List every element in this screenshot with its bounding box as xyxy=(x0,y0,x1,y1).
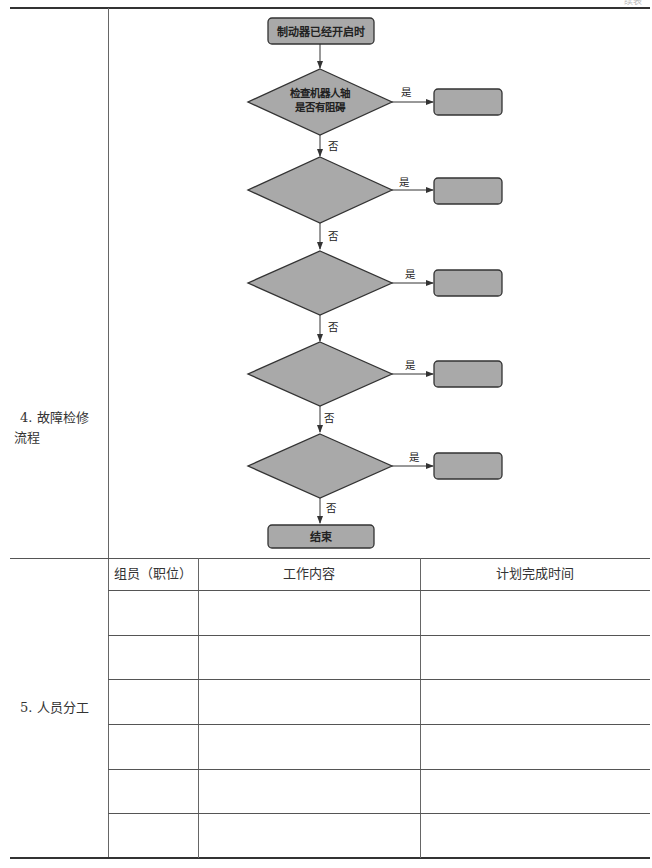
completion-time-cell[interactable] xyxy=(420,770,650,813)
member-cell[interactable] xyxy=(108,591,198,635)
start-node-text: 制动器已经开启时 xyxy=(277,25,365,39)
header-planned-completion: 计划完成时间 xyxy=(420,558,650,590)
table-row xyxy=(108,591,650,635)
decision-node-3 xyxy=(248,251,392,315)
decision-2-yes-box xyxy=(434,178,502,204)
decision-4-no-label: 否 xyxy=(324,412,335,424)
work-content-cell[interactable] xyxy=(198,814,420,857)
work-content-cell[interactable] xyxy=(198,636,420,679)
decision-node-1: 检查机器人轴 是否有阻碍 xyxy=(248,69,392,135)
decision-4-yes-label: 是 xyxy=(405,359,416,371)
start-node: 制动器已经开启时 xyxy=(268,18,374,44)
decision-3-yes-box xyxy=(434,270,502,296)
table-row xyxy=(108,814,650,857)
decision-1-yes-box xyxy=(434,89,502,115)
decision-node-2 xyxy=(248,157,392,223)
decision-3-yes-label: 是 xyxy=(405,268,416,280)
work-content-cell[interactable] xyxy=(198,680,420,724)
decision-1-text-line2: 是否有阻碍 xyxy=(294,101,346,113)
completion-time-cell[interactable] xyxy=(420,680,650,724)
table-row xyxy=(108,636,650,679)
decision-5-yes-box xyxy=(434,453,502,479)
end-node: 结束 xyxy=(268,525,374,548)
work-content-cell[interactable] xyxy=(198,770,420,813)
completion-time-cell[interactable] xyxy=(420,814,650,857)
work-content-cell[interactable] xyxy=(198,725,420,769)
end-node-text: 结束 xyxy=(309,530,333,544)
decision-1-yes-label: 是 xyxy=(401,86,412,98)
header-work-content: 工作内容 xyxy=(198,558,420,590)
decision-node-4 xyxy=(248,342,392,406)
completion-time-cell[interactable] xyxy=(420,591,650,635)
header-member-position: 组员（职位） xyxy=(108,558,198,590)
work-content-cell[interactable] xyxy=(198,591,420,635)
decision-2-no-label: 否 xyxy=(328,230,339,242)
table-bottom-border xyxy=(10,857,650,859)
member-cell[interactable] xyxy=(108,770,198,813)
member-cell[interactable] xyxy=(108,636,198,679)
decision-2-yes-label: 是 xyxy=(399,176,410,188)
completion-time-cell[interactable] xyxy=(420,725,650,769)
completion-time-cell[interactable] xyxy=(420,636,650,679)
member-cell[interactable] xyxy=(108,814,198,857)
decision-5-yes-label: 是 xyxy=(409,451,420,463)
decision-5-no-label: 否 xyxy=(326,502,337,514)
member-cell[interactable] xyxy=(108,680,198,724)
table-row xyxy=(108,770,650,813)
decision-3-no-label: 否 xyxy=(328,321,339,333)
section5-label: 5. 人员分工 xyxy=(20,698,110,718)
decision-node-5 xyxy=(248,434,392,498)
decision-1-text-line1: 检查机器人轴 xyxy=(290,87,350,99)
fault-repair-flowchart: 制动器已经开启时 检查机器人轴 是否有阻碍 是 否 是 否 是 否 是 否 是 … xyxy=(0,0,652,560)
decision-1-no-label: 否 xyxy=(328,140,339,152)
table-row xyxy=(108,680,650,724)
member-cell[interactable] xyxy=(108,725,198,769)
table-row xyxy=(108,725,650,769)
decision-4-yes-box xyxy=(434,361,502,387)
